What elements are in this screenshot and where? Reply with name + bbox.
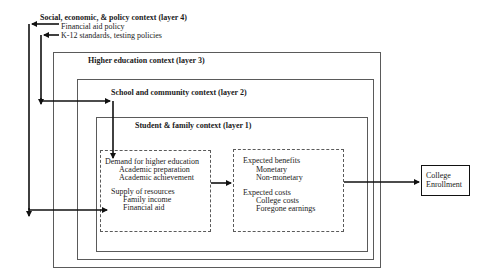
connector-arrows [0, 0, 486, 280]
arrow-k12-standards [41, 35, 113, 158]
